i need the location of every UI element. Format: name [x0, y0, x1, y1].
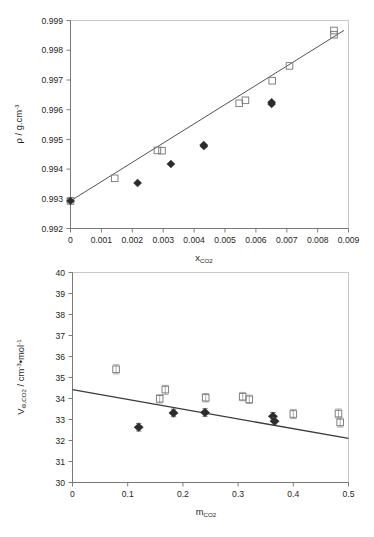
data-series-filled-diamonds: [66, 98, 275, 205]
x-tick-label: 0.001: [91, 235, 113, 245]
y-tick-label: 0.998: [41, 45, 63, 55]
x-axis-title-sub: CO2: [204, 511, 217, 518]
data-point-square-group: [246, 395, 253, 403]
data-point-diamond-group: [134, 423, 143, 432]
x-axis-title-main: m: [196, 506, 204, 517]
y-tick-label: 0.999: [41, 16, 63, 26]
y-tick-label: 33: [55, 415, 65, 425]
molar-volume-plot-svg: 30 31 32 33 34 35 36 37 38 39 40: [0, 270, 374, 537]
data-point-diamond: [134, 423, 143, 432]
y-tick-label: 39: [55, 289, 65, 299]
data-point-diamond-group: [200, 408, 209, 417]
data-point-diamond: [167, 160, 175, 168]
y-axis-title-sup2: -1: [15, 339, 22, 345]
plot-frame: [71, 21, 349, 229]
y-tick-label: 36: [55, 352, 65, 362]
data-point-square: [269, 77, 276, 84]
x-axis-title-sub: CO2: [200, 257, 213, 264]
data-series-filled-diamonds: [134, 408, 279, 431]
trend-line: [73, 390, 349, 439]
data-point-square-group: [202, 394, 209, 402]
y-axis-title: VΦ,CO2 / cm-3•mol-1: [15, 339, 28, 415]
data-point-square-group: [162, 385, 169, 394]
x-axis-tick-labels: 0 0.1 0.2 0.3 0.4 0.5: [70, 489, 355, 499]
x-tick-label: 0.007: [276, 235, 298, 245]
y-axis-title-rest: / cm: [15, 369, 26, 390]
svg-text:mCO2: mCO2: [196, 506, 217, 518]
y-tick-label: 0.997: [41, 75, 63, 85]
y-tick-label: 0.995: [41, 135, 63, 145]
x-tick-label: 0.1: [122, 489, 134, 499]
data-point-square: [331, 27, 338, 34]
x-tick-label: 0.5: [343, 489, 355, 499]
data-point-diamond-group: [169, 409, 178, 418]
data-point-diamond: [200, 408, 209, 417]
density-plot-svg: 0.992 0.993 0.994 0.995 0.996 0.997 0.99…: [0, 0, 374, 270]
svg-text:xCO2: xCO2: [195, 252, 213, 264]
data-point-diamond: [169, 409, 178, 418]
svg-text:ρ / g.cm-3: ρ / g.cm-3: [13, 104, 24, 144]
y-tick-label: 37: [55, 331, 65, 341]
data-point-square-group: [239, 392, 246, 400]
y-tick-label: 38: [55, 310, 65, 320]
x-axis-tick-labels: 0 0.001 0.002 0.003 0.004 0.005 0.006 0.…: [68, 235, 359, 245]
x-axis-title: mCO2: [196, 506, 217, 518]
x-axis-ticks: [71, 229, 349, 233]
data-point-square-group: [337, 418, 344, 427]
data-point-square: [236, 100, 243, 107]
x-tick-label: 0.006: [245, 235, 267, 245]
data-point-square-group: [290, 409, 297, 418]
x-tick-label: 0.003: [152, 235, 174, 245]
y-tick-label: 0.993: [41, 194, 63, 204]
y-tick-label: 40: [55, 270, 65, 278]
data-point-square-group: [335, 409, 342, 418]
y-axis-title-sub: Φ,CO2: [20, 388, 27, 408]
data-point-square: [159, 147, 166, 154]
y-axis-title-sup: -3: [13, 104, 20, 110]
y-tick-label: 0.992: [41, 224, 63, 234]
y-tick-label: 35: [55, 373, 65, 383]
y-tick-label: 31: [55, 457, 65, 467]
y-axis-tick-labels: 0.992 0.993 0.994 0.995 0.996 0.997 0.99…: [41, 16, 63, 234]
x-tick-label: 0.004: [183, 235, 205, 245]
x-tick-label: 0.3: [232, 489, 244, 499]
y-tick-label: 0.996: [41, 105, 63, 115]
y-axis-title: ρ / g.cm-3: [13, 104, 24, 144]
x-tick-label: 0.008: [307, 235, 329, 245]
y-tick-label: 30: [55, 478, 65, 488]
svg-text:VΦ,CO2 / cm-3•mol-1: VΦ,CO2 / cm-3•mol-1: [15, 339, 28, 415]
plot-frame: [73, 273, 349, 483]
x-tick-label: 0: [68, 235, 73, 245]
y-tick-label: 34: [55, 394, 65, 404]
data-point-square: [111, 175, 118, 182]
y-axis-ticks: [69, 273, 73, 483]
chart-panel-density: 0.992 0.993 0.994 0.995 0.996 0.997 0.99…: [0, 0, 374, 270]
x-axis-ticks: [73, 483, 349, 487]
figure-two-panel-chart: 0.992 0.993 0.994 0.995 0.996 0.997 0.99…: [0, 0, 374, 537]
y-axis-tick-labels: 30 31 32 33 34 35 36 37 38 39 40: [55, 270, 65, 488]
data-point-square-group: [156, 395, 163, 403]
x-tick-label: 0.009: [338, 235, 360, 245]
x-tick-label: 0.4: [287, 489, 299, 499]
x-tick-label: 0.2: [177, 489, 189, 499]
chart-panel-apparent-molar-volume: 30 31 32 33 34 35 36 37 38 39 40: [0, 270, 374, 537]
x-tick-label: 0.005: [214, 235, 236, 245]
y-tick-label: 32: [55, 436, 65, 446]
x-tick-label: 0: [70, 489, 75, 499]
data-point-square-group: [113, 365, 120, 374]
x-axis-title: xCO2: [195, 252, 213, 264]
y-axis-title-main: ρ / g.cm: [13, 110, 24, 144]
y-axis-title-mid: •mol: [15, 345, 26, 363]
x-tick-label: 0.002: [122, 235, 144, 245]
data-point-square: [242, 97, 249, 104]
y-tick-label: 0.994: [41, 164, 63, 174]
data-point-diamond: [134, 179, 142, 187]
